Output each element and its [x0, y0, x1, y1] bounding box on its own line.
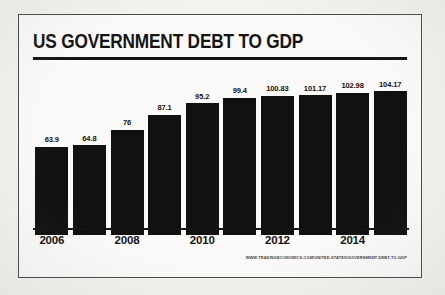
bar-value-label: 100.83 [266, 84, 288, 93]
bar-value-label: 101.17 [304, 84, 326, 93]
bar-group: 100.83 [261, 67, 294, 235]
bar[interactable] [111, 130, 144, 235]
bar-value-label: 95.2 [195, 92, 209, 101]
bar-value-label: 76 [123, 118, 131, 127]
x-axis-tick-label: 2014 [340, 234, 365, 246]
bar[interactable] [223, 98, 256, 235]
page-title: US GOVERNMENT DEBT TO GDP [33, 29, 303, 52]
x-axis-line [33, 228, 409, 230]
bar[interactable] [261, 96, 294, 235]
bar-group: 87.1 [148, 67, 181, 235]
bar-group: 101.17 [299, 67, 332, 235]
bar-group: 76 [111, 67, 144, 235]
bar-group: 104.17 [374, 67, 407, 235]
x-axis-tick-label: 2010 [190, 234, 215, 246]
bar[interactable] [73, 145, 106, 235]
bar[interactable] [148, 115, 181, 235]
poster-background: US GOVERNMENT DEBT TO GDP 63.964.87687.1… [0, 0, 445, 295]
bar-value-label: 99.4 [233, 86, 247, 95]
x-axis-tick-label: 2006 [39, 234, 64, 246]
bar-value-label: 64.8 [82, 134, 96, 143]
chart-frame: US GOVERNMENT DEBT TO GDP 63.964.87687.1… [18, 14, 422, 278]
bar-chart-plot-area: 63.964.87687.195.299.4100.83101.17102.98… [33, 67, 409, 235]
source-url: WWW.TRADINGECONOMICS.COM/UNITED-STATES/G… [246, 255, 407, 260]
bar-group: 99.4 [223, 67, 256, 235]
x-axis-tick-label: 2008 [115, 234, 140, 246]
bar[interactable] [35, 147, 68, 235]
bar[interactable] [374, 91, 407, 235]
bar-group: 95.2 [186, 67, 219, 235]
bar[interactable] [299, 95, 332, 235]
bar[interactable] [186, 103, 219, 235]
x-axis-tick-label: 2012 [265, 234, 290, 246]
bar-group: 64.8 [73, 67, 106, 235]
bar-value-label: 63.9 [45, 135, 59, 144]
bar-group: 102.98 [336, 67, 369, 235]
bar-value-label: 102.98 [341, 81, 363, 90]
bar-value-label: 87.1 [157, 103, 171, 112]
title-divider [33, 57, 407, 60]
bar-group: 63.9 [35, 67, 68, 235]
bar-value-label: 104.17 [379, 80, 401, 89]
bar[interactable] [336, 93, 369, 235]
